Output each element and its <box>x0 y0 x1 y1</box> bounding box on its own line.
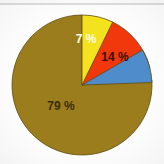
pie-label-yellow: 7 % <box>76 32 97 46</box>
pie-chart-screenshot: 79 % 14 % 7 % <box>0 0 164 164</box>
pie-label-olive: 79 % <box>47 99 75 113</box>
pie-chart-svg: 79 % 14 % 7 % <box>0 0 164 164</box>
pie-chart-figure: 79 % 14 % 7 % <box>0 0 164 164</box>
pie-label-red: 14 % <box>101 50 129 64</box>
